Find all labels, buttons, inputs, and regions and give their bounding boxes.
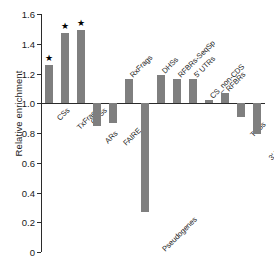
y-tick-label: 0.8 — [22, 128, 35, 139]
bar-group[interactable]: CS_non-CDS — [201, 14, 217, 252]
bar[interactable] — [237, 103, 245, 116]
bar-group[interactable]: RxFrags — [121, 14, 137, 252]
bar[interactable] — [141, 103, 149, 212]
significance-star-icon: ★ — [45, 54, 53, 63]
bar[interactable] — [253, 103, 261, 134]
bar-group[interactable]: TSSs — [233, 14, 249, 252]
significance-star-icon: ★ — [77, 19, 85, 28]
y-tick-mark — [37, 252, 41, 253]
y-tick-label: 0 — [30, 247, 35, 258]
bar[interactable] — [173, 79, 181, 103]
y-tick-label: 0.6 — [22, 157, 35, 168]
bar[interactable] — [125, 79, 133, 103]
y-tick-label: 1.6 — [22, 9, 35, 20]
bar-group[interactable]: ARs — [89, 14, 105, 252]
bar[interactable] — [221, 93, 229, 103]
bar-group[interactable]: RFBRs — [217, 14, 233, 252]
bar[interactable] — [77, 30, 85, 103]
relative-enrichment-bar-chart: Relative enrichment 00.20.40.60.81.01.21… — [0, 0, 274, 270]
bar-group[interactable]: Pseudogenes — [137, 14, 153, 252]
category-label: 3' UTRs — [267, 137, 274, 162]
bar[interactable] — [45, 65, 53, 104]
bar[interactable] — [157, 75, 165, 103]
bar-group[interactable]: 5' UTRs — [185, 14, 201, 252]
bar[interactable] — [61, 33, 69, 103]
bar-group[interactable]: ★CSs — [41, 14, 57, 252]
y-tick-label: 1.4 — [22, 38, 35, 49]
significance-star-icon: ★ — [61, 22, 69, 31]
y-tick-label: 0.4 — [22, 187, 35, 198]
bar[interactable] — [189, 79, 197, 103]
y-tick-label: 0.2 — [22, 217, 35, 228]
bar-group[interactable]: ★TxFrags — [57, 14, 73, 252]
y-tick-label: 1.2 — [22, 68, 35, 79]
y-tick-label: 1.0 — [22, 98, 35, 109]
bar-group[interactable]: FAIRE — [105, 14, 121, 252]
bar-series: ★CSs★TxFrags★CDSsARsFAIRERxFragsPseudoge… — [41, 14, 265, 252]
bar-group[interactable]: DHSs — [153, 14, 169, 252]
plot-area: 00.20.40.60.81.01.21.41.6 ★CSs★TxFrags★C… — [41, 14, 265, 252]
bar[interactable] — [205, 100, 213, 103]
bar-group[interactable]: RFBRs-SeqSp — [169, 14, 185, 252]
bar[interactable] — [93, 103, 101, 125]
bar[interactable] — [109, 103, 117, 122]
cropped-header-text — [60, 0, 274, 10]
bar-group[interactable]: ★CDSs — [73, 14, 89, 252]
bar-group[interactable]: 3' UTRs — [249, 14, 265, 252]
